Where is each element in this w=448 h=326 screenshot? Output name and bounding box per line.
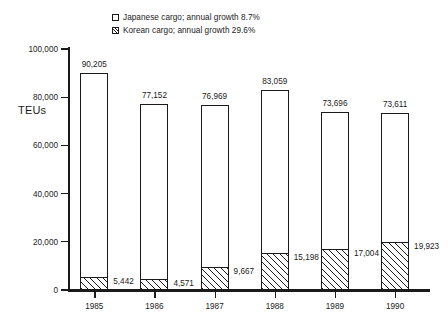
y-axis-tick — [61, 48, 69, 49]
data-label-korean-cargo-1989: 17,004 — [354, 249, 379, 258]
y-axis-tick-label: 80,000 — [33, 93, 58, 102]
y-axis-tick — [61, 97, 69, 98]
legend-item-japanese-cargo: Japanese cargo; annual growth 8.7% — [112, 12, 260, 24]
y-axis-tick-label: 0 — [53, 286, 58, 295]
x-axis-tick — [94, 291, 95, 298]
bar-korean-cargo-1989 — [321, 249, 349, 290]
x-axis-tick-label-1986: 1986 — [145, 302, 163, 311]
y-axis-title: TEUs — [18, 104, 46, 116]
y-axis-tick-label: 60,000 — [33, 141, 58, 150]
data-label-japanese-cargo-1986: 77,152 — [142, 91, 167, 100]
chart-legend: Japanese cargo; annual growth 8.7% Korea… — [112, 12, 260, 37]
y-axis-line — [68, 47, 70, 292]
x-axis-tick-label-1990: 1990 — [386, 302, 404, 311]
data-label-korean-cargo-1987: 9,667 — [234, 266, 255, 275]
y-axis-tick — [61, 241, 69, 242]
data-label-japanese-cargo-1990: 73,611 — [383, 100, 407, 109]
data-label-korean-cargo-1990: 19,923 — [414, 241, 439, 250]
bar-korean-cargo-1986 — [140, 279, 168, 290]
x-axis-tick-label-1988: 1988 — [266, 302, 284, 311]
data-label-japanese-cargo-1987: 76,969 — [202, 92, 227, 101]
bar-korean-cargo-1987 — [201, 267, 229, 290]
x-axis-line — [68, 289, 430, 292]
y-axis-tick-label: 20,000 — [33, 237, 58, 246]
x-axis-tick — [154, 291, 155, 298]
open-square-icon — [112, 14, 119, 21]
data-label-japanese-cargo-1988: 83,059 — [262, 77, 287, 86]
y-axis-tick — [61, 289, 69, 290]
bar-japanese-cargo-1986 — [140, 104, 168, 290]
bar-korean-cargo-1988 — [261, 253, 289, 290]
data-label-japanese-cargo-1989: 73,696 — [322, 99, 347, 108]
y-axis-tick-label: 40,000 — [33, 189, 58, 198]
x-axis-tick-label-1989: 1989 — [326, 302, 344, 311]
bar-korean-cargo-1985 — [80, 277, 108, 290]
x-axis-tick-label-1987: 1987 — [205, 302, 223, 311]
bar-japanese-cargo-1987 — [201, 105, 229, 290]
x-axis-tick — [275, 291, 276, 298]
cargo-bar-chart: Japanese cargo; annual growth 8.7% Korea… — [0, 0, 448, 326]
bar-japanese-cargo-1985 — [80, 73, 108, 290]
y-axis-tick-label: 100,000 — [28, 45, 58, 54]
y-axis-tick — [61, 145, 69, 146]
legend-label-korean-cargo: Korean cargo; annual growth 29.6% — [123, 25, 255, 37]
legend-label-japanese-cargo: Japanese cargo; annual growth 8.7% — [123, 12, 260, 24]
x-axis-tick — [215, 291, 216, 298]
x-axis-tick — [335, 291, 336, 298]
data-label-korean-cargo-1986: 4,571 — [173, 278, 194, 287]
data-label-korean-cargo-1988: 15,198 — [294, 253, 319, 262]
data-label-korean-cargo-1985: 5,442 — [113, 276, 134, 285]
x-axis-tick-label-1985: 1985 — [85, 302, 103, 311]
hatched-square-icon — [112, 27, 119, 34]
x-axis-tick — [395, 291, 396, 298]
data-label-japanese-cargo-1985: 90,205 — [82, 60, 107, 69]
bar-korean-cargo-1990 — [381, 242, 409, 290]
y-axis-tick — [61, 193, 69, 194]
legend-item-korean-cargo: Korean cargo; annual growth 29.6% — [112, 25, 260, 37]
